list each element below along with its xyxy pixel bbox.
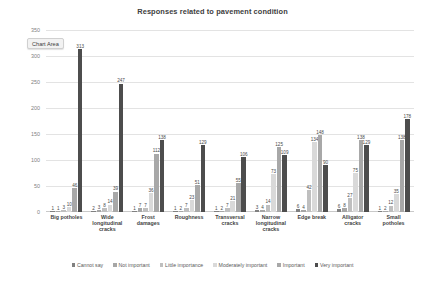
bar[interactable]: 1 (132, 211, 137, 212)
bar-value-label: 42 (306, 185, 311, 190)
x-axis-category-label: Edge break (291, 214, 332, 220)
bar[interactable]: 75 (353, 173, 358, 212)
legend-item[interactable]: Little importance (160, 262, 203, 268)
chart-legend: Cannot sayNot importantLittle importance… (0, 262, 425, 268)
bar[interactable]: 134 (312, 142, 317, 212)
bar[interactable]: 46 (72, 188, 77, 212)
bar[interactable]: 21 (230, 201, 235, 212)
bar[interactable]: 1 (378, 211, 383, 212)
bar[interactable]: 129 (201, 145, 206, 212)
bar[interactable]: 42 (307, 190, 312, 212)
bar[interactable]: 39 (113, 192, 118, 212)
legend-label: Little importance (165, 262, 203, 268)
bar[interactable]: 3 (97, 210, 102, 212)
bar[interactable]: 7 (143, 208, 148, 212)
bar[interactable]: 23 (190, 200, 195, 212)
bar[interactable]: 4 (301, 210, 306, 212)
bar[interactable]: 2 (219, 211, 224, 212)
bar[interactable]: 90 (323, 165, 328, 212)
bar-value-label: 90 (323, 160, 328, 165)
legend-swatch-icon (315, 263, 318, 266)
bar-value-label: 129 (199, 140, 207, 145)
bar-value-label: 2 (180, 206, 183, 211)
bar[interactable]: 14 (266, 205, 271, 212)
bar-value-label: 247 (117, 78, 125, 83)
bar[interactable]: 7 (225, 208, 230, 212)
bar-group: 1272351129 (173, 30, 205, 212)
bar[interactable]: 247 (119, 84, 124, 212)
x-axis-category-label: Wide longitudinal cracks (87, 214, 128, 233)
bar[interactable]: 106 (241, 157, 246, 212)
bar[interactable]: 8 (102, 208, 107, 212)
legend-swatch-icon (277, 263, 280, 266)
bar[interactable]: 2 (179, 211, 184, 212)
bar[interactable]: 7 (184, 208, 189, 212)
y-axis-tick-label: 150 (16, 131, 40, 137)
bar-group: 682775138129 (337, 30, 369, 212)
bar-group: 341473125109 (255, 30, 287, 212)
bar-value-label: 39 (113, 186, 118, 191)
legend-item[interactable]: Moderately important (213, 262, 267, 268)
bar-value-label: 7 (185, 203, 188, 208)
y-axis-tick-label: 300 (16, 53, 40, 59)
bar[interactable]: 129 (364, 145, 369, 212)
legend-item[interactable]: Not important (113, 262, 150, 268)
y-axis-tick-label: 200 (16, 105, 40, 111)
bar-value-label: 21 (230, 196, 235, 201)
bar-group: 1272155106 (214, 30, 246, 212)
bar[interactable]: 178 (405, 119, 410, 212)
bar-value-label: 10 (67, 202, 72, 207)
chart-area-tooltip: Chart Area (27, 38, 64, 49)
bar-group: 121235138178 (378, 30, 410, 212)
bar-value-label: 7 (139, 203, 142, 208)
bar-value-label: 129 (363, 140, 371, 145)
y-axis-tick-label: 250 (16, 79, 40, 85)
bar[interactable]: 3 (255, 210, 260, 212)
bar-value-label: 313 (76, 44, 84, 49)
bar[interactable]: 2 (91, 211, 96, 212)
bar[interactable]: 138 (359, 140, 364, 212)
bar[interactable]: 55 (236, 183, 241, 212)
bar[interactable]: 1 (173, 211, 178, 212)
bar[interactable]: 112 (154, 154, 159, 212)
bar[interactable]: 73 (271, 174, 276, 212)
bar-value-label: 109 (281, 150, 289, 155)
legend-item[interactable]: Important (277, 262, 304, 268)
bar[interactable]: 27 (348, 198, 353, 212)
bar[interactable]: 138 (400, 140, 405, 212)
bar-value-label: 1 (215, 206, 218, 211)
bar-value-label: 73 (271, 169, 276, 174)
bar-value-label: 1 (51, 206, 54, 211)
bar-value-label: 35 (394, 189, 399, 194)
bar[interactable]: 36 (149, 193, 154, 212)
bar[interactable]: 12 (389, 206, 394, 212)
bar[interactable]: 14 (108, 205, 113, 212)
bar[interactable]: 1 (56, 211, 61, 212)
bar[interactable]: 8 (342, 208, 347, 212)
bar[interactable]: 3 (61, 210, 66, 212)
bar[interactable]: 148 (318, 135, 323, 212)
bar-value-label: 12 (388, 200, 393, 205)
bar-value-label: 14 (108, 199, 113, 204)
bar[interactable]: 6 (337, 209, 342, 212)
bar[interactable]: 313 (78, 49, 83, 212)
bar[interactable]: 6 (296, 209, 301, 212)
bar-value-label: 36 (148, 188, 153, 193)
bar[interactable]: 125 (277, 147, 282, 212)
bar[interactable]: 109 (282, 155, 287, 212)
x-axis-category-label: Small potholes (373, 214, 414, 226)
legend-item[interactable]: Cannot say (72, 262, 104, 268)
bar[interactable]: 35 (394, 194, 399, 212)
bar[interactable]: 4 (260, 210, 265, 212)
bar[interactable]: 51 (195, 185, 200, 212)
bar[interactable]: 10 (67, 207, 72, 212)
bar-value-label: 4 (302, 205, 305, 210)
bar[interactable]: 138 (160, 140, 165, 212)
bar[interactable]: 2 (383, 211, 388, 212)
legend-swatch-icon (213, 263, 216, 266)
bar[interactable]: 1 (214, 211, 219, 212)
bar[interactable]: 7 (138, 208, 143, 212)
y-axis-tick-label: 100 (16, 157, 40, 163)
bar[interactable]: 1 (50, 211, 55, 212)
legend-item[interactable]: Very important (315, 262, 354, 268)
